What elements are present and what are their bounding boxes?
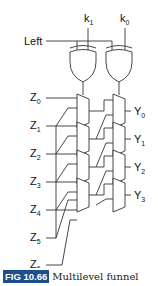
z2-label: Z2 [30,147,41,161]
figure-caption: FIG 10.66 Multilevel funnel [3,270,139,283]
xor-gate-2 [106,46,132,83]
multilevel-funnel-diagram: k1 k0 Left [0,0,158,268]
z3-label: Z3 [30,175,41,189]
level1-to-level2-wires [89,100,113,205]
y0-label: Y0 [134,105,145,119]
k1-label: k1 [84,12,94,26]
y3-label: Y3 [134,189,145,203]
k0-label: k0 [120,12,130,26]
z0-label: Z0 [30,91,41,105]
y-output-wires [125,111,131,195]
z5-label: Z5 [30,231,41,245]
y2-label: Y2 [134,161,145,175]
z6-label: Z6 [30,258,41,268]
left-label: Left [24,35,42,47]
z4-label: Z4 [30,203,41,217]
xor-gate-1 [70,46,96,83]
y1-label: Y1 [134,133,145,147]
figure-number-badge: FIG 10.66 [3,270,49,283]
z-input-wires [46,98,77,265]
mux-l2-3 [113,178,125,212]
figure-title: Multilevel funnel [52,271,138,282]
mux-level2 [113,94,125,212]
z1-label: Z1 [30,119,41,133]
